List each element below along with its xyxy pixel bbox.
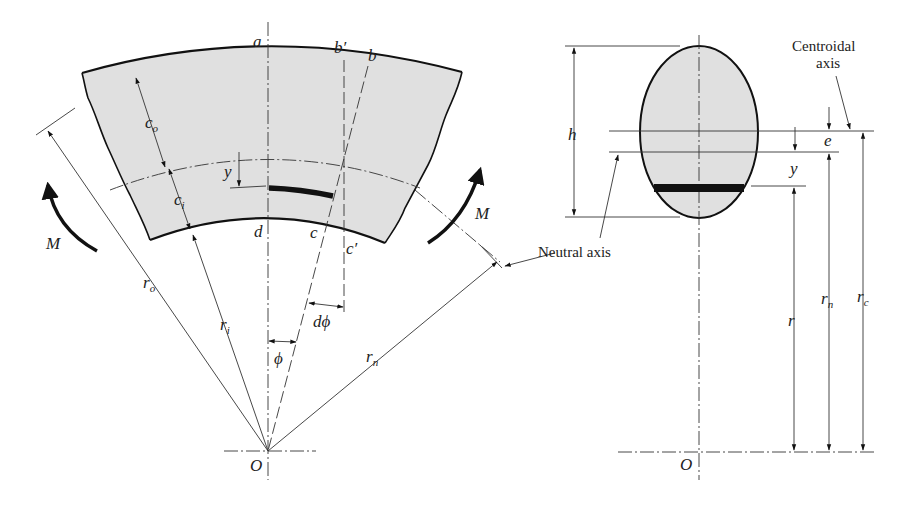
r-n-line	[268, 262, 497, 451]
phi-label: ϕ	[274, 349, 283, 368]
y-label: y	[222, 162, 232, 181]
section-stressed-fiber	[654, 184, 744, 192]
neutral-axis-label: Neutral axis	[538, 244, 611, 260]
neutral-axis-extension-right	[415, 190, 500, 262]
r-n-label: rn	[366, 347, 379, 368]
r-i-line	[193, 235, 268, 451]
point-a-label: a	[253, 32, 262, 51]
centroidal-axis-label-line2: axis	[816, 55, 840, 71]
e-label: e	[824, 131, 832, 150]
point-d-label: d	[254, 222, 263, 241]
moment-arrow-right	[428, 170, 480, 243]
dphi-arrow	[309, 303, 343, 307]
section-r-n-label: rn	[821, 289, 834, 310]
r-o-extension	[36, 108, 75, 135]
h-label: h	[568, 125, 577, 144]
section-y-label: y	[788, 159, 798, 178]
r-label: r	[788, 311, 795, 330]
r-o-label: ro	[143, 273, 156, 294]
neutral-axis-pointer-right	[600, 155, 618, 238]
point-c-prime-label: c′	[346, 239, 358, 258]
r-i-label: ri	[220, 315, 230, 336]
moment-right-label: M	[474, 204, 490, 223]
r-c-label: rc	[857, 287, 869, 308]
curved-beam-diagram: a b′ b d c c′ O co ci y ro ri rn ϕ dϕ M …	[0, 0, 902, 505]
neutral-axis-tick	[480, 245, 502, 268]
phi-arrow	[269, 341, 296, 342]
point-c-label: c	[310, 223, 318, 242]
cross-section-view: h e y r rn rc O Centroidal axis	[565, 35, 876, 480]
origin-label: O	[250, 456, 262, 475]
centroidal-axis-pointer	[836, 76, 850, 129]
dphi-label: dϕ	[313, 312, 331, 331]
moment-left-label: M	[45, 234, 61, 253]
centroidal-axis-label-line1: Centroidal	[792, 38, 855, 54]
section-origin-label: O	[680, 455, 692, 474]
curved-beam-side-view: a b′ b d c c′ O co ci y ro ri rn ϕ dϕ M …	[36, 22, 611, 480]
point-b-prime-label: b′	[334, 38, 347, 57]
point-b-label: b	[368, 46, 377, 65]
